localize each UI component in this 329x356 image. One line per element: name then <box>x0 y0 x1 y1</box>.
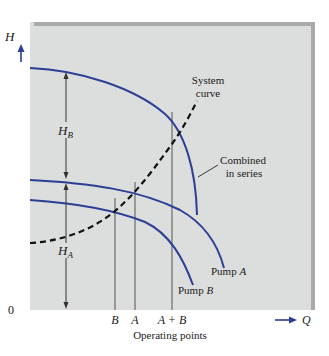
operating-point-label-a: A <box>130 313 139 327</box>
system-curve-label-line2: curve <box>196 87 221 99</box>
operating-point-label-b: B <box>111 313 119 327</box>
panel-top-border <box>34 22 315 26</box>
system-curve-label-line1: System <box>192 74 225 86</box>
x-axis-label: Q <box>302 313 311 327</box>
y-axis-zero-label: 0 <box>8 303 14 317</box>
operating-point-label-ab: A + B <box>157 313 187 327</box>
x-axis-arrow-icon <box>275 317 297 324</box>
pump-a-label: Pump A <box>211 265 246 277</box>
panel-right-border <box>311 22 315 310</box>
combined-label-line1: Combined <box>220 154 266 166</box>
pump-b-label: Pump B <box>178 284 213 296</box>
x-axis-caption: Operating points <box>133 329 207 341</box>
pump-series-diagram: H 0 HB HA System curve Combined in serie… <box>0 0 329 356</box>
y-axis-arrow-icon <box>18 44 25 62</box>
combined-label-line2: in series <box>226 167 262 179</box>
y-axis-label: H <box>4 29 15 44</box>
